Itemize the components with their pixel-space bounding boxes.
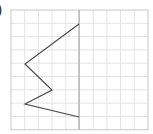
reflection-grid — [0, 0, 153, 134]
